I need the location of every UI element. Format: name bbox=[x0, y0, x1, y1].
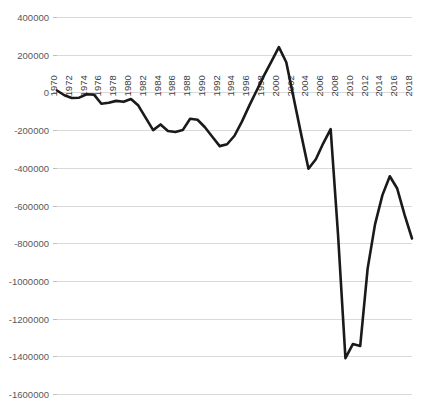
chart-canvas: 4000002000000-200000-400000-600000-80000… bbox=[0, 0, 426, 413]
y-axis-tick-label: -200000 bbox=[14, 125, 49, 136]
x-axis-tick-label: 1978 bbox=[107, 75, 118, 96]
gridlines bbox=[53, 18, 412, 395]
x-axis-tick-label: 2006 bbox=[314, 75, 325, 96]
x-axis-tick-label: 1994 bbox=[226, 75, 237, 96]
x-axis-tick-label: 1990 bbox=[196, 75, 207, 96]
x-axis-tick-label: 2014 bbox=[373, 75, 384, 96]
y-axis-tick-label: -1200000 bbox=[9, 314, 49, 325]
x-axis-tick-label: 1992 bbox=[211, 75, 222, 96]
y-axis-tick-label: -400000 bbox=[14, 163, 49, 174]
y-axis-tick-labels: 4000002000000-200000-400000-600000-80000… bbox=[9, 12, 49, 400]
y-axis-tick-label: -600000 bbox=[14, 201, 49, 212]
line-chart: 4000002000000-200000-400000-600000-80000… bbox=[0, 0, 426, 413]
x-axis-tick-label: 2018 bbox=[403, 75, 414, 96]
x-axis-tick-label: 2012 bbox=[359, 75, 370, 96]
y-axis-tick-label: -1400000 bbox=[9, 351, 49, 362]
x-axis-tick-label: 1988 bbox=[181, 75, 192, 96]
y-axis-tick-label: 200000 bbox=[17, 50, 49, 61]
y-axis-tick-label: -1600000 bbox=[9, 389, 49, 400]
x-axis-tick-label: 1986 bbox=[166, 75, 177, 96]
x-axis-tick-label: 1996 bbox=[240, 75, 251, 96]
x-axis-tick-label: 1970 bbox=[48, 75, 59, 96]
x-axis-tick-label: 1972 bbox=[63, 75, 74, 96]
x-axis-tick-label: 2004 bbox=[299, 75, 310, 96]
x-axis-tick-labels: 1970197219741976197819801982198419861988… bbox=[48, 75, 414, 96]
x-axis-tick-label: 2008 bbox=[329, 75, 340, 96]
x-axis-tick-label: 1984 bbox=[152, 75, 163, 96]
x-axis-tick-label: 1980 bbox=[122, 75, 133, 96]
y-axis-tick-label: -1000000 bbox=[9, 276, 49, 287]
x-axis-tick-label: 1982 bbox=[137, 75, 148, 96]
x-axis-tick-label: 2016 bbox=[388, 75, 399, 96]
y-axis-tick-label: -800000 bbox=[14, 238, 49, 249]
y-axis-tick-label: 400000 bbox=[17, 12, 49, 23]
x-axis-tick-label: 2010 bbox=[344, 75, 355, 96]
x-axis-tick-label: 2000 bbox=[270, 75, 281, 96]
x-axis-tick-label: 1976 bbox=[92, 75, 103, 96]
